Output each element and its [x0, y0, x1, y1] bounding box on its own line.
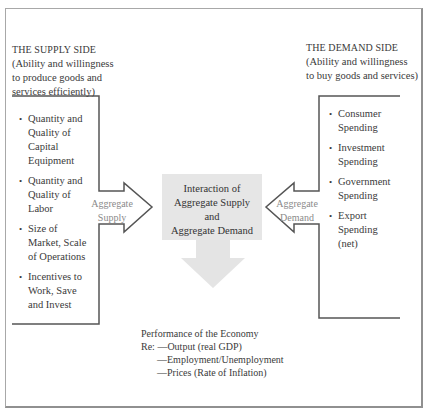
- label-line: Interaction of: [162, 182, 262, 196]
- demand-components-list: Consumer Spending Investment Spending Go…: [329, 107, 409, 257]
- supply-description-line: services efficiently): [12, 85, 114, 99]
- item-line: Equipment: [28, 154, 101, 168]
- item-line: Spending: [338, 121, 409, 135]
- item-line: Spending: [338, 223, 409, 237]
- supply-item-market-size: Size of Market, Scale of Operations: [19, 222, 101, 264]
- aggregate-supply-label: Aggregate Supply: [84, 197, 140, 225]
- performance-line: Re: —Output (real GDP): [141, 340, 284, 353]
- interaction-label: Interaction of Aggregate Supply and Aggr…: [162, 182, 262, 238]
- label-line: Demand: [270, 211, 324, 225]
- item-line: Quantity and: [28, 174, 101, 188]
- label-line: Supply: [84, 211, 140, 225]
- performance-title: Performance of the Economy: [141, 327, 284, 340]
- demand-item-government: Government Spending: [329, 175, 409, 203]
- demand-heading: THE DEMAND SIDE: [306, 41, 418, 55]
- item-line: Capital: [28, 140, 101, 154]
- down-arrow-icon: [181, 240, 245, 288]
- supply-description-line: to produce goods and: [12, 71, 114, 85]
- item-line: and Invest: [28, 298, 101, 312]
- demand-item-export: Export Spending (net): [329, 209, 409, 251]
- item-line: Work, Save: [28, 284, 101, 298]
- performance-line: —Prices (Rate of Inflation): [141, 366, 284, 379]
- performance-block: Performance of the Economy Re: —Output (…: [141, 327, 284, 379]
- item-line: Investment: [338, 141, 409, 155]
- item-line: Incentives to: [28, 270, 101, 284]
- demand-item-investment: Investment Spending: [329, 141, 409, 169]
- performance-line: —Employment/Unemployment: [141, 353, 284, 366]
- item-line: Government: [338, 175, 409, 189]
- label-line: Aggregate: [270, 197, 324, 211]
- item-line: Consumer: [338, 107, 409, 121]
- item-line: Spending: [338, 155, 409, 169]
- item-line: Spending: [338, 189, 409, 203]
- label-line: Aggregate: [84, 197, 140, 211]
- item-line: Quantity and: [28, 112, 101, 126]
- item-line: (net): [338, 237, 409, 251]
- supply-description-line: (Ability and willingness: [12, 57, 114, 71]
- supply-item-incentives: Incentives to Work, Save and Invest: [19, 270, 101, 312]
- item-line: Export: [338, 209, 409, 223]
- supply-heading: THE SUPPLY SIDE: [12, 43, 114, 57]
- supply-side-header: THE SUPPLY SIDE (Ability and willingness…: [12, 43, 114, 99]
- demand-side-header: THE DEMAND SIDE (Ability and willingness…: [306, 41, 418, 83]
- item-line: Quality of: [28, 126, 101, 140]
- item-line: Market, Scale: [28, 236, 101, 250]
- supply-item-capital: Quantity and Quality of Capital Equipmen…: [19, 112, 101, 168]
- demand-item-consumer: Consumer Spending: [329, 107, 409, 135]
- demand-description-line: to buy goods and services): [306, 69, 418, 83]
- label-line: Aggregate Demand: [162, 224, 262, 238]
- label-line: and: [162, 210, 262, 224]
- item-line: of Operations: [28, 250, 101, 264]
- aggregate-demand-label: Aggregate Demand: [270, 197, 324, 225]
- demand-description-line: (Ability and willingness: [306, 55, 418, 69]
- label-line: Aggregate Supply: [162, 196, 262, 210]
